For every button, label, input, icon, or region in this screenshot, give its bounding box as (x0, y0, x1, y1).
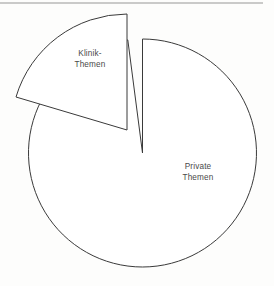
pie-slice-label-klinik-themen: Klinik- Themen (50, 49, 130, 70)
pie-slice-klinik-themen (16, 14, 127, 130)
pie-slice-label-private-themen: Private Themen (158, 162, 238, 183)
pie-slice-label-private-themen-line2: Themen (158, 173, 238, 184)
pie-chart-graphic (0, 0, 274, 286)
pie-slice-label-klinik-themen-line1: Klinik- (50, 49, 130, 60)
exploded-pie-chart-figure: Klinik- Themen Private Themen (0, 0, 274, 286)
pie-slice-label-klinik-themen-line2: Themen (50, 60, 130, 71)
pie-slice-label-private-themen-line1: Private (158, 162, 238, 173)
